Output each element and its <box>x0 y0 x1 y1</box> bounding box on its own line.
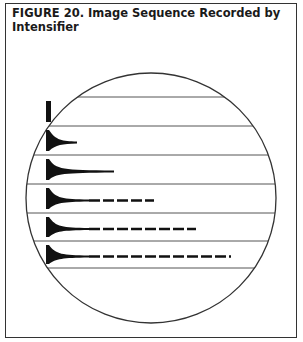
image-frame-1 <box>46 101 51 122</box>
scan-lines <box>20 97 285 268</box>
image-frame-2 <box>46 130 77 151</box>
image-frame-3 <box>46 159 114 180</box>
image-streaks <box>46 101 231 264</box>
intensifier-diagram <box>0 0 303 342</box>
image-frame-4 <box>46 188 154 209</box>
image-frame-6 <box>46 245 231 264</box>
image-frame-5 <box>46 217 196 237</box>
